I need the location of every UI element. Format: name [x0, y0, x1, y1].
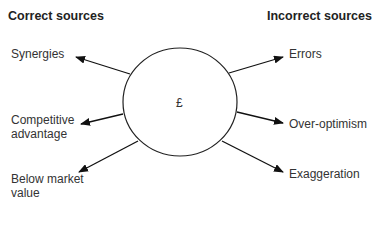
- label-errors: Errors: [289, 47, 322, 61]
- label-below-market-value-line1: Below market: [11, 172, 84, 186]
- label-competitive-advantage-line2: advantage: [11, 127, 74, 141]
- label-over-optimism: Over-optimism: [289, 117, 367, 131]
- label-below-market-value: Below market value: [11, 172, 84, 200]
- pound-symbol: £: [176, 96, 183, 110]
- label-synergies: Synergies: [11, 47, 64, 61]
- arrow-below-market-value: [79, 141, 138, 172]
- label-competitive-advantage: Competitive advantage: [11, 113, 74, 141]
- arrow-synergies: [76, 57, 130, 74]
- arrow-exaggeration: [222, 141, 283, 172]
- label-exaggeration: Exaggeration: [289, 167, 360, 181]
- label-below-market-value-line2: value: [11, 186, 84, 200]
- arrow-errors: [229, 57, 283, 73]
- arrow-competitive-advantage: [81, 114, 123, 124]
- label-competitive-advantage-line1: Competitive: [11, 113, 74, 127]
- arrow-over-optimism: [237, 112, 283, 123]
